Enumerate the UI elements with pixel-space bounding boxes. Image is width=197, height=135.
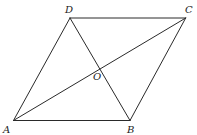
labels: A B C D O xyxy=(2,4,193,135)
segment-bd xyxy=(70,18,130,121)
label-a: A xyxy=(2,124,10,135)
segment-bc xyxy=(130,18,186,121)
segment-da xyxy=(14,18,71,121)
label-c: C xyxy=(185,4,193,15)
segments xyxy=(14,18,186,121)
label-d: D xyxy=(64,4,73,15)
label-o: O xyxy=(93,71,101,82)
rhombus-diagram: A B C D O xyxy=(0,0,197,135)
label-b: B xyxy=(126,124,134,135)
